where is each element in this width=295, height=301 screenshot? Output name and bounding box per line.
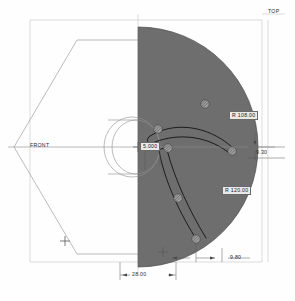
dimension-blade-offset[interactable]: 9.80	[230, 254, 241, 260]
bolt-hole-icon	[174, 194, 182, 202]
bolt-hole-icon	[154, 125, 162, 133]
bolt-hole-icon	[201, 100, 209, 108]
dimension-radius-outer[interactable]: R 108.00	[229, 111, 258, 120]
view-label-front: FRONT	[30, 142, 49, 148]
dimension-hub-diameter[interactable]: 5.000	[140, 142, 160, 151]
drawing-canvas: TOP FRONT R 108.00 R 120.00 5.000 9.30 9…	[0, 0, 295, 301]
dimension-radius-inner[interactable]: R 120.00	[222, 186, 251, 195]
view-label-top: TOP	[268, 8, 279, 14]
bolt-hole-icon	[192, 235, 200, 243]
dimension-edge-thickness[interactable]: 9.30	[256, 149, 267, 155]
crosshair-icon	[60, 236, 70, 246]
bolt-hole-icon	[228, 147, 236, 155]
bolt-hole-icon	[164, 144, 172, 152]
dimension-hub-width[interactable]: 28.00	[132, 271, 146, 277]
